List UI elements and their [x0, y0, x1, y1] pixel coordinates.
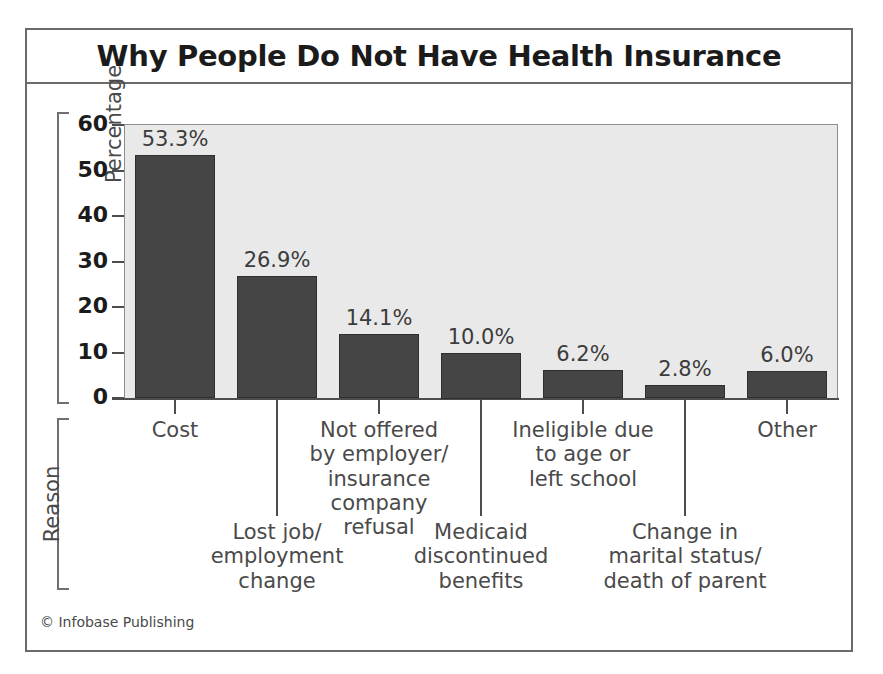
bar-value-label: 53.3%: [115, 129, 235, 150]
y-axis-tick-label: 10: [66, 341, 108, 363]
y-axis-tick-label: 30: [66, 250, 108, 272]
x-axis-category-label: Change in marital status/ death of paren…: [590, 520, 780, 593]
y-axis-tick-label: 20: [66, 295, 108, 317]
y-axis-tick-label-wrap: 10: [62, 341, 108, 363]
x-axis-leader-line: [276, 400, 278, 516]
x-axis-title-holder: Reason: [30, 0, 60, 674]
y-axis-tick: [112, 124, 124, 126]
bar-value-label: 26.9%: [217, 250, 337, 271]
x-axis-leader-line: [582, 400, 584, 414]
y-axis-tick: [112, 261, 124, 263]
bar-value-label: 14.1%: [319, 308, 439, 329]
x-axis-leader-line: [378, 400, 380, 414]
y-axis-tick: [112, 215, 124, 217]
x-axis-category-label: Other: [692, 418, 882, 442]
y-axis-tick-label-wrap: 0: [62, 386, 108, 408]
y-axis-tick-label-wrap: 60: [62, 113, 108, 135]
y-axis-tick-label-wrap: 30: [62, 250, 108, 272]
y-axis-tick-label-wrap: 40: [62, 204, 108, 226]
x-axis-title: Reason: [40, 418, 64, 590]
bar: [339, 334, 419, 398]
y-axis-tick: [112, 170, 124, 172]
y-axis-tick-label: 50: [66, 159, 108, 181]
y-axis-tick: [112, 352, 124, 354]
bar: [135, 155, 215, 398]
bar: [645, 385, 725, 398]
x-axis-leader-line: [684, 400, 686, 516]
title-band: Why People Do Not Have Health Insurance: [27, 30, 851, 84]
y-axis-tick-label: 0: [66, 386, 108, 408]
copyright-credit: © Infobase Publishing: [40, 614, 194, 630]
x-axis-leader-line: [786, 400, 788, 414]
y-axis-tick-label: 60: [66, 113, 108, 135]
x-axis-category-label: Ineligible due to age or left school: [488, 418, 678, 491]
bar: [543, 370, 623, 398]
y-axis-tick-label: 40: [66, 204, 108, 226]
bar-value-label: 6.0%: [727, 345, 847, 366]
bar: [237, 276, 317, 398]
y-axis-tick: [112, 397, 124, 399]
chart-figure: Why People Do Not Have Health Insurance …: [0, 0, 883, 674]
page-title: Why People Do Not Have Health Insurance: [97, 39, 782, 73]
y-axis-tick: [112, 306, 124, 308]
bar: [747, 371, 827, 398]
y-axis-tick-label-wrap: 50: [62, 159, 108, 181]
x-axis-category-label: Cost: [80, 418, 270, 442]
bar: [441, 353, 521, 399]
x-axis-leader-line: [174, 400, 176, 414]
x-axis-leader-line: [480, 400, 482, 516]
y-axis-tick-label-wrap: 20: [62, 295, 108, 317]
x-axis-category-label: Medicaid discontinued benefits: [386, 520, 576, 593]
